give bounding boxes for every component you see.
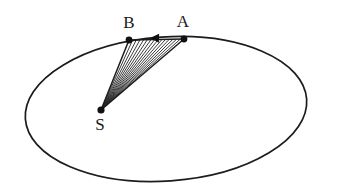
- radius-line-s-to-a: [101, 39, 184, 110]
- kepler-second-law-figure: A B S: [0, 0, 337, 194]
- point-marker-s-focus: [97, 106, 104, 113]
- diagram-canvas: A B S: [0, 0, 337, 194]
- radius-line-s-to-b: [101, 40, 129, 110]
- label-point-b: B: [123, 13, 134, 32]
- point-marker-b: [126, 37, 133, 44]
- hatch-line: [101, 40, 140, 110]
- point-marker-a: [181, 36, 188, 43]
- motion-direction-arrow-icon: [150, 34, 159, 43]
- label-point-a: A: [177, 12, 190, 31]
- label-focus-s: S: [95, 115, 104, 134]
